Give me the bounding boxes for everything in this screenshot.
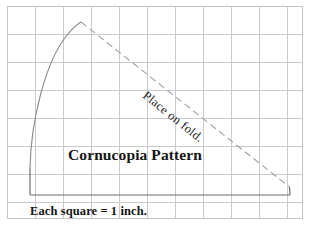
- pattern-right-edge: [290, 187, 291, 195]
- sheet-border: [8, 7, 303, 219]
- pattern-title: Cornucopia Pattern: [68, 146, 202, 163]
- place-on-fold-label: Place on fold.: [140, 88, 206, 145]
- grid-vertical-lines: [7, 6, 287, 219]
- pattern-sheet: Place on fold. Cornucopia Pattern Each s…: [0, 0, 310, 225]
- cornucopia-pattern-drawing: Place on fold. Cornucopia Pattern Each s…: [0, 0, 310, 225]
- scale-note: Each square = 1 inch.: [30, 204, 147, 218]
